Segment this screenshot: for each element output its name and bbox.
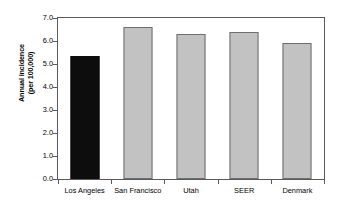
y-axis-tick-label: 2.0 — [31, 129, 53, 137]
bar-slot — [111, 18, 164, 179]
bar-slot — [58, 18, 111, 179]
x-axis-tick-mark — [58, 180, 59, 184]
x-axis-tick-mark — [324, 180, 325, 184]
x-axis-label-utah: Utah — [183, 186, 199, 195]
bar-slot — [271, 18, 324, 179]
x-axis-tick-mark — [164, 180, 165, 184]
y-axis-tick-label: 4.0 — [31, 83, 53, 91]
bar-slot — [164, 18, 217, 179]
y-axis-tick-label: 7.0 — [31, 14, 53, 22]
bar-seer[interactable] — [230, 32, 259, 179]
bar-san-francisco[interactable] — [123, 27, 152, 179]
x-axis-tick-mark — [111, 180, 112, 184]
x-axis-label-denmark: Denmark — [282, 186, 312, 195]
bar-utah[interactable] — [176, 34, 205, 179]
x-axis-tick-mark — [218, 180, 219, 184]
x-axis-tick-mark — [271, 180, 272, 184]
bars-layer — [58, 18, 324, 179]
bar-denmark[interactable] — [283, 43, 312, 179]
y-axis-title: Annual incidence (per 100,000) — [18, 0, 36, 148]
x-axis-label-los-angeles: Los Angeles — [64, 186, 104, 195]
y-axis-tick-label: 0.0 — [31, 175, 53, 183]
y-axis-tick-label: 5.0 — [31, 60, 53, 68]
y-axis-tick-label: 6.0 — [31, 37, 53, 45]
bar-los-angeles[interactable] — [70, 56, 99, 179]
bar-slot — [218, 18, 271, 179]
bar-chart-figure: Annual incidence (per 100,000) 0.01.02.0… — [0, 0, 344, 205]
x-axis-label-seer: SEER — [234, 186, 254, 195]
y-axis-tick-label: 3.0 — [31, 106, 53, 114]
x-axis-label-san-francisco: San Francisco — [114, 186, 161, 195]
y-axis-tick-label: 1.0 — [31, 152, 53, 160]
